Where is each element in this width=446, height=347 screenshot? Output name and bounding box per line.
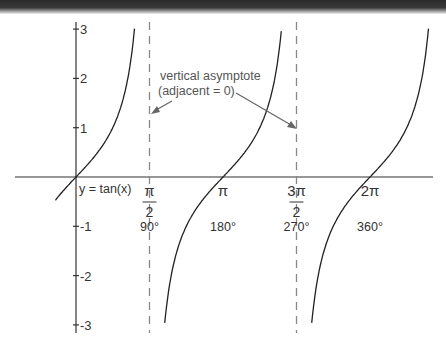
x-tick-radian: 3π	[287, 182, 306, 199]
x-tick-radian: π	[218, 182, 228, 199]
annotation-line2: (adjacent = 0)	[158, 84, 235, 98]
y-tick-label: 2	[80, 71, 87, 86]
x-tick-denominator: 2	[146, 204, 154, 220]
y-tick-label: -3	[80, 318, 92, 333]
y-tick-label: 3	[80, 22, 87, 37]
x-tick-radian: π	[144, 182, 154, 199]
y-tick-label: -1	[80, 219, 92, 234]
tan-branch	[55, 29, 134, 201]
tan-graph: 321-1-2-3 π290°π180°3π2270°2π360° y = ta…	[0, 0, 446, 347]
arrowhead-left-icon	[151, 106, 160, 114]
tan-branch	[312, 29, 429, 323]
y-tick-label: -2	[80, 269, 92, 284]
x-tick-labels: π290°π180°3π2270°2π360°	[140, 182, 383, 234]
x-tick-degree: 90°	[140, 220, 159, 234]
arrowhead-right-icon	[287, 121, 297, 129]
annotation-line1: vertical asymptote	[160, 69, 261, 83]
x-tick-degree: 360°	[357, 220, 383, 234]
x-tick-degree: 270°	[284, 220, 310, 234]
x-tick-degree: 180°	[210, 220, 236, 234]
y-tick-label: 1	[80, 121, 87, 136]
x-tick-denominator: 2	[293, 204, 301, 220]
arrow-left	[156, 101, 172, 110]
x-tick-radian: 2π	[361, 182, 380, 199]
function-label: y = tan(x)	[79, 182, 131, 196]
